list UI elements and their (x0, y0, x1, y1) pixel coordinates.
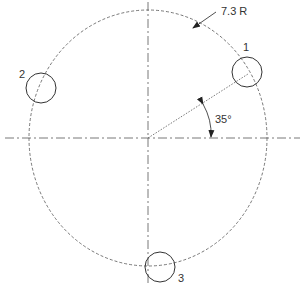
hole-3 (145, 252, 175, 282)
radius-label: 7.3 R (221, 5, 247, 17)
radius-line-35deg (148, 74, 248, 138)
bolt-circle-diagram: 35° 7.3 R 1 2 3 (0, 0, 302, 291)
hole-1 (232, 57, 262, 87)
hole-3-label: 3 (178, 272, 184, 284)
angle-label: 35° (215, 113, 232, 125)
hole-2-label: 2 (19, 68, 25, 80)
hole-1-label: 1 (243, 41, 249, 53)
angle-arc (203, 104, 211, 137)
hole-2 (26, 73, 56, 103)
